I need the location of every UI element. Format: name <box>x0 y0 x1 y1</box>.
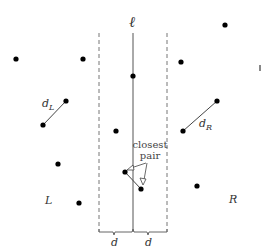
closest-pair-annotation-line2: pair <box>140 150 161 161</box>
arrow-head-left <box>127 165 134 170</box>
dividing-line-label: ℓ <box>129 13 135 31</box>
dr-label: dR <box>199 117 212 132</box>
point <box>113 128 118 133</box>
point <box>40 122 45 127</box>
closest-pair-point-right <box>138 186 143 191</box>
strip-left-width-label: d <box>111 236 118 249</box>
point <box>214 98 219 103</box>
point <box>194 183 199 188</box>
right-region-label: R <box>228 193 237 206</box>
point <box>130 73 135 78</box>
point <box>63 98 68 103</box>
edge-artifact <box>259 65 261 71</box>
point <box>222 22 227 27</box>
point <box>80 56 85 61</box>
point <box>76 200 81 205</box>
point <box>180 128 185 133</box>
point <box>13 56 18 61</box>
closest-pair-point-left <box>122 169 127 174</box>
left-region-label: L <box>44 194 52 207</box>
point <box>178 59 183 64</box>
points-strip <box>113 73 143 191</box>
points-left <box>13 56 85 205</box>
strip-right-width-label: d <box>145 236 152 249</box>
arrow-to-right-point <box>144 163 147 180</box>
point <box>55 161 60 166</box>
points-right <box>178 22 227 188</box>
closest-pair-annotation-line1: closest <box>132 139 167 150</box>
dl-label: dL <box>42 97 54 112</box>
divide-and-conquer-closest-pair-diagram: ℓ d d dL dR closest pair L R <box>0 0 261 251</box>
arrow-head-right <box>140 178 146 185</box>
